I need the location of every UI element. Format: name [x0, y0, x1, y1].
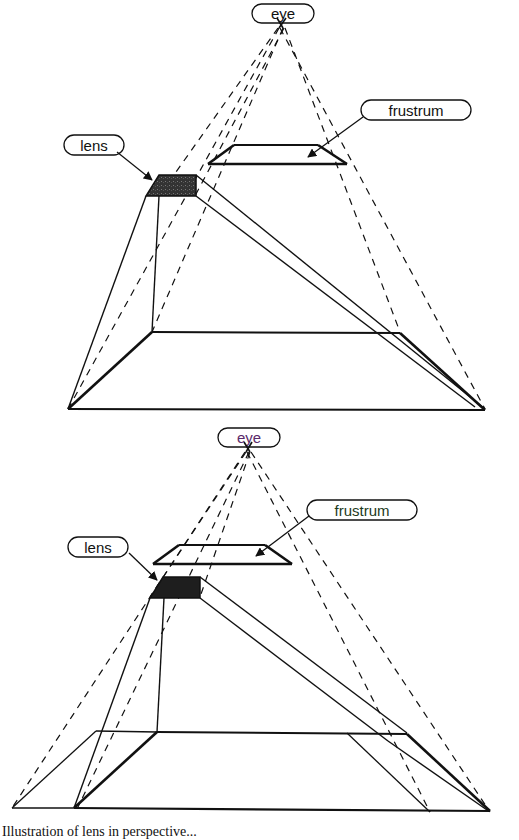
lens-label: lens — [64, 135, 152, 180]
eye-label-text: eye — [237, 429, 261, 446]
panel-top: eye frustrum — [64, 4, 485, 410]
base-plane — [74, 732, 490, 811]
base-plane — [68, 332, 485, 410]
lens-label-text: lens — [80, 137, 108, 154]
figure-caption: Illustration of lens in perspective... — [2, 824, 197, 840]
extended-base-plane — [12, 731, 430, 812]
eye-label: eye — [252, 4, 314, 23]
sight-lines — [12, 452, 490, 812]
lens-projection-edges — [74, 577, 487, 810]
eye-label: eye — [218, 428, 280, 447]
lens-shape — [146, 175, 196, 196]
lens-shape — [150, 577, 200, 598]
lens-label-text: lens — [84, 539, 112, 556]
frustrum-label-text: frustrum — [334, 502, 389, 519]
lens-label: lens — [68, 537, 157, 580]
frustrum-label: frustrum — [256, 500, 417, 556]
frustrum-label: frustrum — [308, 100, 471, 157]
eye-label-text: eye — [271, 5, 295, 22]
frustrum-label-text: frustrum — [388, 102, 443, 119]
panel-bottom: eye frustrum — [12, 428, 490, 812]
frustum-plane — [208, 145, 347, 164]
